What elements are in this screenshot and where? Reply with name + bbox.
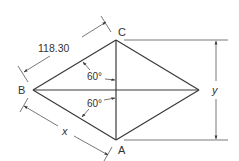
side-right-a bbox=[116, 90, 199, 140]
angle-arrow-lower-ba bbox=[82, 109, 89, 117]
dimension-label-y: y bbox=[211, 84, 219, 96]
angle-arrow-upper-bc bbox=[83, 62, 90, 70]
dimension-label-bc: 118.30 bbox=[38, 42, 69, 54]
rhombus-diagram: 118.30 x y 60° 60° C B A bbox=[0, 0, 239, 161]
vertex-label-c: C bbox=[118, 26, 126, 38]
angle-arrow-upper-vertical bbox=[105, 79, 115, 80]
dimension-label-x: x bbox=[61, 125, 68, 137]
vertex-label-b: B bbox=[18, 84, 25, 96]
dimension-line-bc-left bbox=[24, 56, 50, 72]
angle-arrow-lower-vertical bbox=[104, 98, 115, 100]
dimension-line-ba-right bbox=[74, 136, 108, 155]
extension-line-a bbox=[104, 147, 112, 161]
dimension-line-ba-left bbox=[24, 106, 58, 126]
vertex-label-a: A bbox=[118, 144, 126, 156]
dimension-line-bc-right bbox=[82, 22, 106, 37]
extension-line-b-upper bbox=[18, 66, 28, 82]
side-ab bbox=[33, 90, 116, 140]
angle-label-upper: 60° bbox=[87, 71, 102, 82]
diagonals bbox=[33, 40, 199, 140]
extension-line-b-lower bbox=[20, 98, 28, 112]
side-c-right bbox=[116, 40, 199, 90]
angle-label-lower: 60° bbox=[87, 98, 102, 109]
